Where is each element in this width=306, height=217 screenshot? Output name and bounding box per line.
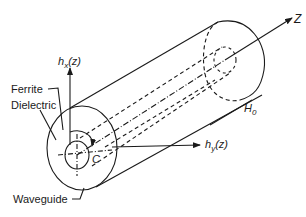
back-face-outer-hidden <box>203 22 240 101</box>
z-axis <box>225 18 292 60</box>
rotation-arc <box>70 131 92 146</box>
z-axis-label: Z <box>294 13 301 25</box>
hx-label: hx(z) <box>58 56 81 70</box>
hy-arrow <box>112 145 200 147</box>
center-label: C <box>92 154 100 165</box>
h0-main: H <box>244 102 252 114</box>
cylinder-top-edge <box>70 22 218 108</box>
hy-arg: (z) <box>215 138 228 150</box>
back-face-outer-solid <box>218 21 265 100</box>
h0-label: H0 <box>244 103 256 117</box>
center-axis <box>77 60 225 155</box>
dielectric-label: Dielectric <box>11 100 56 111</box>
hy-label: hy(z) <box>205 139 228 153</box>
ferrite-label: Ferrite <box>11 84 43 95</box>
hx-arg: (z) <box>68 55 81 67</box>
h0-sub: 0 <box>252 108 256 117</box>
front-face-outer <box>47 106 117 190</box>
dielectric-mid-hidden <box>105 80 215 147</box>
waveguide-label: Waveguide <box>13 194 68 205</box>
